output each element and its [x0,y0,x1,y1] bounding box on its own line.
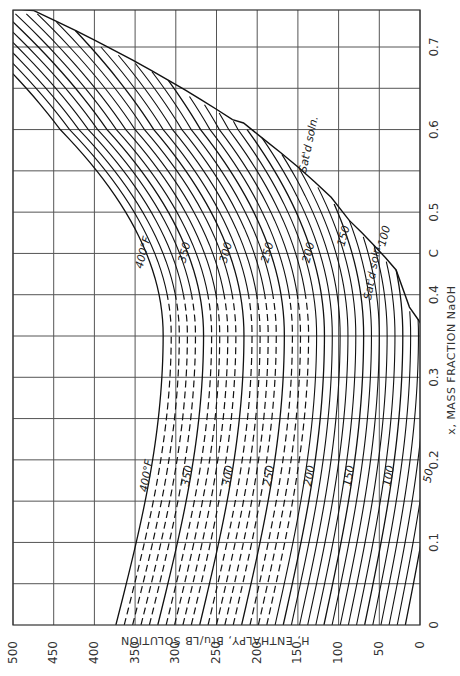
mass-fraction-tick-label: 0.1 [427,533,441,552]
isotherm-label: 250 [261,464,277,487]
isotherm-curves [0,10,441,625]
mass-fraction-tick-label: 0.4 [427,285,441,304]
isotherm [0,14,163,625]
saturation-line [0,10,441,377]
enthalpy-tick-label: 400 [87,641,101,664]
isotherm-label: 400°F [137,458,156,493]
enthalpy-concentration-chart: 500450400350300250200150100500 00.10.20.… [0,0,460,676]
isotherm [152,72,273,295]
mass-fraction-tick-label: 0.5 [427,203,441,222]
isotherm-label: 300 [220,464,236,487]
mass-fraction-tick-label: 0.6 [427,120,441,139]
isotherm-label: 200 [300,241,318,265]
saturated-solution-label: Sat'd soln. [296,115,321,174]
mass-fraction-axis-title: x, MASS FRACTION NaOH [445,285,458,434]
enthalpy-tick-label: 100 [331,641,345,664]
isotherm-label: 150 [341,464,357,487]
mass-fraction-tick-label: 0.2 [427,450,441,469]
mass-fraction-tick-label: 0.7 [427,37,441,56]
enthalpy-tick-label: 0 [413,641,427,649]
isotherm [4,14,203,625]
enthalpy-tick-label: 50 [372,641,386,656]
mass-fraction-tick-label: 0.3 [427,368,441,387]
isotherm-label: 200 [301,464,317,487]
isotherm [262,138,332,625]
isotherm-label: 350 [179,464,195,487]
mass-fraction-axis-ticks: 00.10.20.30.4C0.50.60.7 [427,37,441,628]
mass-fraction-tick-label: 0 [427,621,441,629]
enthalpy-axis-title: H, ENTHALPY, Btu/LB SOLUTION [120,634,309,647]
isotherm-label: 50 [421,468,436,484]
mass-fraction-tick-label: C [427,249,441,257]
isotherm-labels: 400°F350300250200150100400°F350300250200… [133,115,436,493]
enthalpy-tick-label: 500 [6,641,20,664]
enthalpy-tick-label: 450 [46,641,60,664]
isotherm-label: 100 [380,464,396,487]
